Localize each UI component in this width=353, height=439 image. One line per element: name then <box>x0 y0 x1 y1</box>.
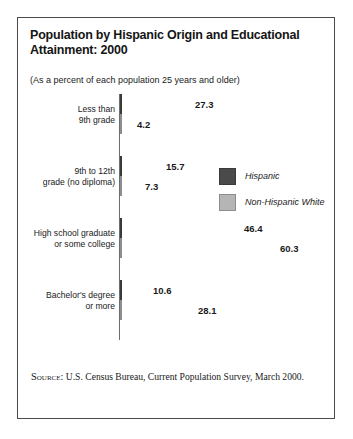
bar-value-label: 4.2 <box>137 119 150 130</box>
bar-hispanic: 15.7 <box>120 156 160 176</box>
category-label-line: 9th to 12th <box>23 166 115 177</box>
category-label-line: grade (no diploma) <box>23 177 115 188</box>
category-label-line: Less than <box>23 104 115 115</box>
chart-legend: Hispanic Non-Hispanic White <box>219 166 325 218</box>
category-label-line: or some college <box>23 239 115 250</box>
bar-hispanic: 10.6 <box>120 280 147 300</box>
bar-value-label: 10.6 <box>153 285 172 296</box>
category-label-line: High school graduate <box>23 228 115 239</box>
category-label: High school graduate or some college <box>23 228 115 250</box>
bar-non-hispanic-white: 28.1 <box>120 300 192 320</box>
source-note: Source: U.S. Census Bureau, Current Popu… <box>31 370 321 383</box>
bar-fill <box>120 176 122 196</box>
category-label: Less than 9th grade <box>23 104 115 126</box>
chart-subtitle: (As a percent of each population 25 year… <box>30 74 320 86</box>
bar-hispanic: 27.3 <box>120 94 190 114</box>
chart-plot-area: Less than 9th grade 27.3 4.2 9th to 12th… <box>18 90 336 348</box>
bar-value-label: 7.3 <box>145 181 158 192</box>
legend-label: Non-Hispanic White <box>245 197 325 207</box>
legend-item-hispanic: Hispanic <box>219 166 325 186</box>
bar-hispanic: 46.4 <box>120 218 238 238</box>
bar-value-label: 60.3 <box>280 243 299 254</box>
bar-fill <box>120 94 122 114</box>
bar-fill <box>120 300 122 320</box>
bar-value-label: 15.7 <box>166 161 185 172</box>
figure-frame: Population by Hispanic Origin and Educat… <box>17 17 335 419</box>
bar-value-label: 46.4 <box>244 223 263 234</box>
bar-fill <box>120 280 122 300</box>
category-label-line: 9th grade <box>23 115 115 126</box>
legend-swatch-icon <box>219 194 236 211</box>
source-text: U.S. Census Bureau, Current Population S… <box>63 371 304 382</box>
bar-value-label: 28.1 <box>198 305 217 316</box>
category-label: Bachelor's degree or more <box>23 290 115 312</box>
bar-value-label: 27.3 <box>195 99 214 110</box>
bar-fill <box>120 156 122 176</box>
category-label-line: Bachelor's degree <box>23 290 115 301</box>
bar-non-hispanic-white: 7.3 <box>120 176 139 196</box>
legend-label: Hispanic <box>245 171 280 181</box>
bar-non-hispanic-white: 4.2 <box>120 114 131 134</box>
bar-non-hispanic-white: 60.3 <box>120 238 274 258</box>
page-title: Population by Hispanic Origin and Educat… <box>30 28 312 58</box>
category-label-line: or more <box>23 301 115 312</box>
bar-fill <box>120 238 122 258</box>
bar-fill <box>120 114 122 134</box>
source-kicker: Source: <box>31 371 63 382</box>
bar-fill <box>120 218 122 238</box>
legend-item-non-hispanic-white: Non-Hispanic White <box>219 192 325 212</box>
category-label: 9th to 12th grade (no diploma) <box>23 166 115 188</box>
legend-swatch-icon <box>219 168 236 185</box>
